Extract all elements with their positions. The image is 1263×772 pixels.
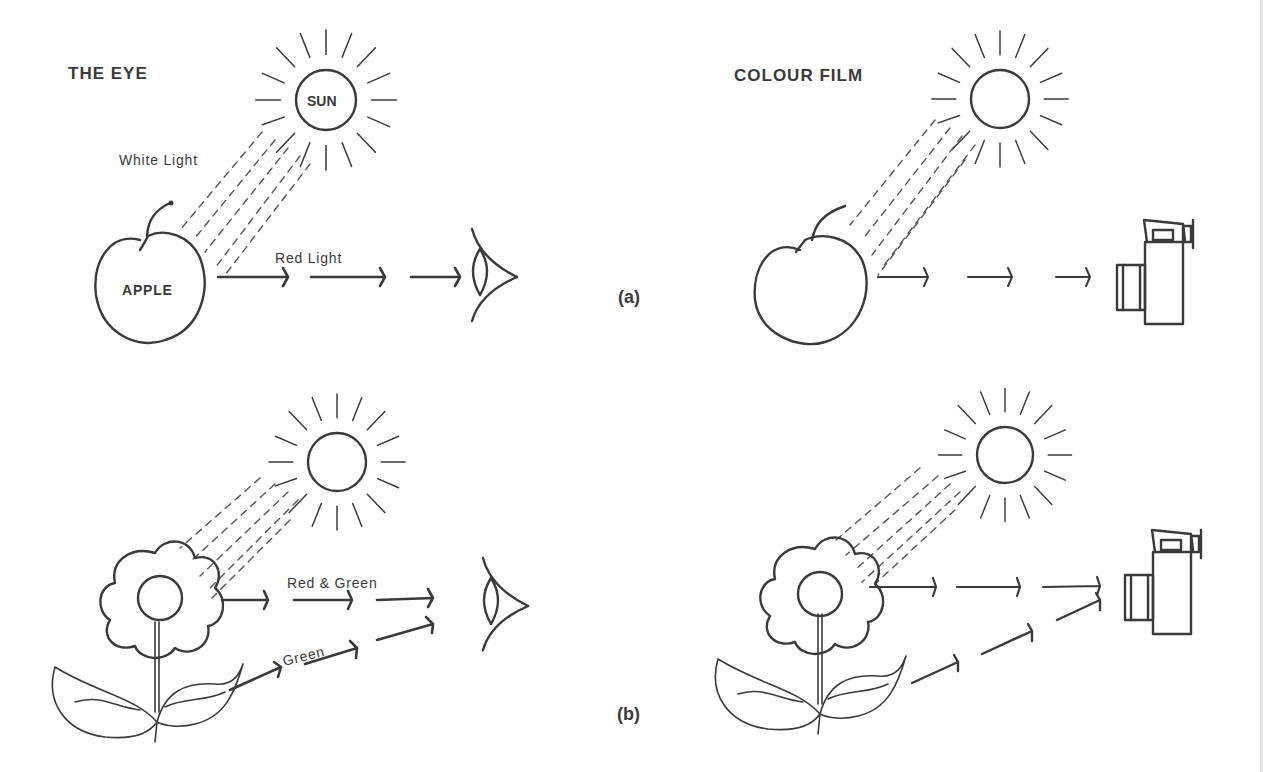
leaves-icon [715, 614, 906, 734]
sun-icon [269, 394, 405, 530]
apple-icon: APPLE [95, 201, 204, 344]
apple-icon [755, 206, 867, 344]
panel-b-label: (b) [617, 704, 640, 724]
leaf-reflected-arrows [230, 617, 433, 690]
sun-label: SUN [307, 93, 337, 109]
camera-icon [1125, 530, 1201, 634]
green-label: Green [281, 643, 327, 669]
flower-reflected-arrows [222, 589, 433, 609]
eye-icon [472, 229, 517, 321]
white-light-label: White Light [119, 152, 198, 168]
red-light-label: Red Light [275, 250, 342, 266]
white-light-rays [836, 468, 960, 584]
reflected-light-arrows [878, 268, 1090, 286]
flower-icon [100, 542, 223, 658]
green-light-label-group: Green [281, 643, 327, 669]
white-light-rays [850, 120, 975, 275]
white-light-rays [180, 478, 298, 598]
apple-label: APPLE [122, 282, 173, 298]
sun-icon [932, 31, 1068, 167]
left-column-title: THE EYE [68, 64, 148, 83]
right-column-title: COLOUR FILM [734, 66, 863, 85]
leaf-reflected-arrows [912, 593, 1100, 683]
eye-icon [483, 558, 528, 650]
sun-icon [938, 388, 1071, 521]
leaves-icon [52, 622, 243, 742]
camera-icon [1117, 220, 1193, 324]
red-green-label: Red & Green [287, 575, 378, 591]
reflected-light-arrows [218, 268, 460, 286]
flower-reflected-arrows [870, 577, 1100, 596]
colour-perception-diagram: THE EYE COLOUR FILM (a) (b) SUN White Li… [0, 0, 1263, 772]
panel-a-label: (a) [618, 287, 640, 307]
sun-icon: SUN [256, 30, 397, 171]
